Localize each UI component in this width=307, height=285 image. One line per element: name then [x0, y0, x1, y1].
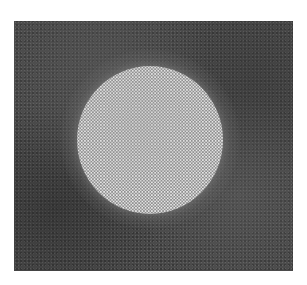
dotted-light-disc — [77, 66, 223, 214]
dark-textured-field — [14, 21, 293, 271]
